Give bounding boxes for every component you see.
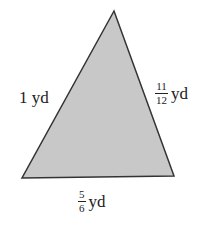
fraction-right-denominator: 12 [155,94,168,106]
fraction-right: 11 12 [155,81,168,106]
side-bottom-unit: yd [89,193,106,210]
side-right-unit: yd [171,85,188,102]
side-label-left: 1 yd [19,89,49,106]
fraction-bottom-numerator: 5 [78,189,86,202]
side-label-bottom: 5 6 yd [78,189,106,214]
side-label-right: 11 12 yd [155,81,188,106]
side-left-text: 1 yd [19,89,49,106]
fraction-bottom: 5 6 [78,189,86,214]
fraction-bottom-denominator: 6 [78,202,86,214]
fraction-right-numerator: 11 [155,81,168,94]
